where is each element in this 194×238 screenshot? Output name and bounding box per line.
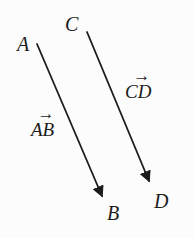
point-label-d: D bbox=[154, 190, 168, 212]
over-arrow-icon: → bbox=[133, 70, 149, 81]
over-arrow-icon: → bbox=[38, 108, 54, 119]
vector-cd-label: → CD bbox=[125, 70, 151, 102]
point-label-c: C bbox=[65, 13, 78, 35]
vector-diagram: A C B D → AB → CD bbox=[0, 0, 194, 238]
vector-cd-line bbox=[87, 32, 149, 181]
point-label-b: B bbox=[107, 202, 119, 224]
point-label-a: A bbox=[17, 33, 29, 55]
vector-ab-label: → AB bbox=[31, 108, 54, 140]
